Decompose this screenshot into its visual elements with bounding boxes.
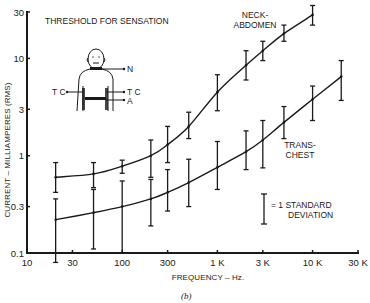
legend-label-line: DEVIATION	[288, 210, 333, 220]
electrode-label-neck: N	[127, 64, 133, 74]
error-bar	[339, 61, 344, 101]
x-axis-title: FREQUENCY – Hz.	[172, 273, 244, 282]
legend: = 1 STANDARD DEVIATION	[261, 194, 333, 224]
series-label-neck-abdomen: NECK- ABDOMEN	[234, 10, 277, 30]
legend-label-line: = 1 STANDARD	[271, 200, 332, 210]
y-axis-title: CURRENT – MILLIAMPERES (RMS)	[3, 82, 12, 217]
data-point	[245, 150, 248, 153]
series-layer	[53, 5, 344, 262]
data-point	[216, 91, 219, 94]
data-point	[187, 181, 190, 184]
error-bar	[120, 181, 125, 253]
y-tick-label: 30	[13, 7, 24, 18]
error-bar	[215, 141, 220, 189]
error-bar	[215, 75, 220, 111]
data-point	[54, 176, 57, 179]
axes: 10301003001 K3 K10 K30 K 0.10.3131030	[11, 7, 369, 269]
data-point	[340, 75, 343, 78]
series-trans-chest	[53, 61, 344, 263]
x-tick-label: 3 K	[256, 257, 271, 268]
x-tick-label: 1 K	[210, 257, 225, 268]
data-point	[54, 218, 57, 221]
series-label-line: NECK-	[242, 10, 269, 20]
data-point	[283, 121, 286, 124]
data-point	[121, 165, 124, 168]
error-bar	[91, 189, 96, 249]
person-icon	[77, 49, 113, 111]
y-tick-label: 10	[13, 53, 24, 64]
threshold-chart: 10301003001 K3 K10 K30 K 0.10.3131030 FR…	[0, 0, 370, 303]
series-label-line: TRANS-	[284, 140, 316, 150]
chart-title: THRESHOLD FOR SENSATION	[45, 16, 169, 26]
y-tick-label: 0.1	[11, 248, 24, 259]
x-tick-label: 300	[160, 257, 176, 268]
error-bar	[91, 163, 96, 188]
error-bar	[165, 170, 170, 211]
data-point	[150, 154, 153, 157]
x-tick-label: 30 K	[348, 257, 368, 268]
electrode-label-abdomen: A	[127, 96, 133, 106]
series-label-trans-chest: TRANS- CHEST	[284, 140, 316, 160]
y-tick-label: 1	[19, 150, 24, 161]
data-point	[92, 211, 95, 214]
series-curve	[56, 15, 313, 177]
data-point	[150, 198, 153, 201]
error-bar	[260, 41, 265, 60]
figure-caption: (b)	[181, 291, 192, 301]
data-point	[216, 166, 219, 169]
error-bar	[260, 121, 265, 168]
torso-figure-inset: N T C T C A	[52, 49, 141, 111]
error-bar	[310, 86, 315, 120]
data-point	[283, 32, 286, 35]
series-label-line: ABDOMEN	[234, 20, 277, 30]
data-point	[262, 139, 265, 142]
error-bar	[148, 140, 153, 177]
data-point	[166, 191, 169, 194]
error-bar-legend-icon	[261, 194, 267, 224]
error-bar	[165, 126, 170, 162]
x-tick-label: 100	[114, 257, 130, 268]
data-point	[262, 49, 265, 52]
electrode-label-trans-chest-left: T C	[52, 87, 66, 97]
data-point	[166, 143, 169, 146]
y-tick-label: 0.3	[11, 201, 24, 212]
error-bar	[148, 179, 153, 225]
data-point	[311, 98, 314, 101]
error-bar	[281, 107, 286, 139]
data-point	[121, 205, 124, 208]
data-point	[187, 125, 190, 128]
x-tick-label: 30	[67, 257, 78, 268]
data-point	[92, 173, 95, 176]
y-tick-label: 3	[19, 104, 24, 115]
error-bar	[244, 51, 249, 80]
data-point	[245, 64, 248, 67]
series-label-line: CHEST	[286, 150, 315, 160]
x-tick-label: 10 K	[303, 257, 323, 268]
x-tick-label: 10	[22, 257, 33, 268]
data-point	[311, 14, 314, 17]
